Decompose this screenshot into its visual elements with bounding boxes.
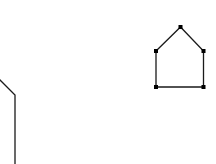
partial-polyline-left[interactable] — [0, 78, 15, 164]
vertex-layer — [154, 25, 206, 89]
shape-layer — [0, 27, 204, 164]
vertex-handle-3[interactable] — [202, 85, 206, 89]
house-polygon[interactable] — [156, 27, 204, 87]
vertex-handle-0[interactable] — [154, 49, 158, 53]
vertex-handle-2[interactable] — [202, 49, 206, 53]
diagram-canvas — [0, 0, 216, 164]
vertex-handle-4[interactable] — [154, 85, 158, 89]
vertex-handle-1[interactable] — [179, 25, 183, 29]
